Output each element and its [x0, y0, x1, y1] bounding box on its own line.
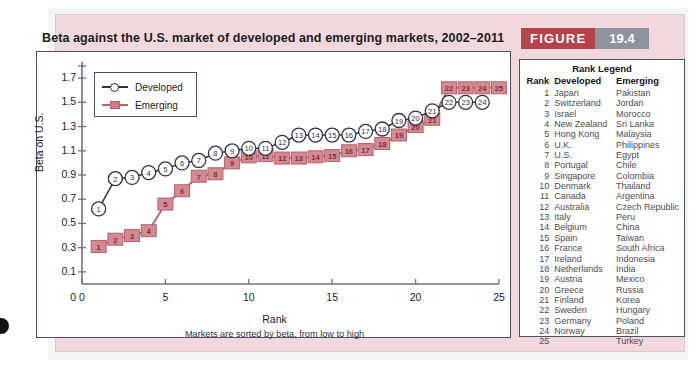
data-point-label: 2 — [113, 175, 117, 184]
rank-cell: 11 — [525, 191, 554, 201]
x-axis-tick-label: 5 — [150, 291, 180, 303]
data-point-label: 12 — [278, 154, 286, 163]
data-point-label: 11 — [262, 144, 270, 153]
rank-legend-row: 16FranceSouth Africa — [525, 243, 679, 253]
data-point-label: 22 — [445, 84, 453, 93]
rank-legend-row: 18NetherlandsIndia — [525, 264, 679, 274]
data-point-label: 24 — [478, 84, 487, 93]
figure-badge-label: FIGURE — [521, 28, 595, 49]
column-header-rank: Rank — [525, 76, 554, 88]
developed-cell: U.S. — [554, 150, 616, 160]
rank-legend-row: 24NorwayBrazil — [525, 326, 679, 336]
y-axis-tick-label: 0.7 — [46, 192, 76, 204]
data-point-label: 9 — [230, 147, 234, 156]
rank-legend-row: 14BelgiumChina — [525, 222, 679, 232]
column-header-developed: Developed — [554, 76, 616, 88]
legend-item-developed: Developed — [102, 78, 196, 96]
emerging-cell: Morocco — [616, 109, 679, 119]
developed-cell: Ireland — [554, 254, 616, 264]
rank-cell: 7 — [525, 150, 554, 160]
x-axis-tick-label: 25 — [484, 291, 514, 303]
emerging-cell: Brazil — [616, 326, 679, 336]
chart-caption: Markets are sorted by beta, from low to … — [37, 329, 512, 339]
chart-panel: Beta on U.S. 0.10.30.50.70.91.11.31.51.7… — [36, 51, 511, 338]
rank-cell: 12 — [525, 202, 554, 212]
developed-cell: Japan — [554, 88, 616, 98]
rank-legend-row: 2SwitzerlandJordan — [525, 98, 679, 108]
developed-cell: Greece — [554, 285, 616, 295]
rank-cell: 10 — [525, 181, 554, 191]
emerging-cell: India — [616, 264, 679, 274]
rank-cell: 16 — [525, 243, 554, 253]
data-point-label: 9 — [230, 159, 234, 168]
y-axis-tick-label: 1.1 — [46, 144, 76, 156]
developed-cell: Hong Kong — [554, 129, 616, 139]
figure-badge-number: 19.4 — [595, 28, 648, 49]
data-point-label: 21 — [428, 107, 436, 116]
rank-cell: 18 — [525, 264, 554, 274]
developed-cell: Germany — [554, 316, 616, 326]
y-axis-tick-label: 0.3 — [46, 241, 76, 253]
data-point-label: 25 — [495, 84, 504, 93]
rank-cell: 15 — [525, 233, 554, 243]
data-point-label: 2 — [113, 236, 117, 245]
emerging-cell: Philippines — [616, 140, 679, 150]
developed-cell: Spain — [554, 233, 616, 243]
developed-cell: Netherlands — [554, 264, 616, 274]
column-header-emerging: Emerging — [616, 76, 679, 88]
emerging-cell: Indonesia — [616, 254, 679, 264]
data-point-label: 13 — [295, 131, 303, 140]
rank-cell: 20 — [525, 285, 554, 295]
developed-cell: U.K. — [554, 140, 616, 150]
rank-legend-row: 5Hong KongMalaysia — [525, 129, 679, 139]
x-axis-tick-label: 15 — [317, 291, 347, 303]
emerging-cell: Chile — [616, 160, 679, 170]
data-point-label: 12 — [278, 138, 286, 147]
y-axis-tick-label: 1.3 — [46, 120, 76, 132]
rank-legend-row: 13ItalyPeru — [525, 212, 679, 222]
emerging-cell: Poland — [616, 316, 679, 326]
rank-legend-grid: Rank Developed Emerging 1JapanPakistan2S… — [525, 76, 679, 347]
legend-marker-developed-icon — [102, 81, 128, 93]
rank-cell: 6 — [525, 140, 554, 150]
data-point-label: 10 — [245, 144, 253, 153]
emerging-cell: Taiwan — [616, 233, 679, 243]
rank-cell: 19 — [525, 274, 554, 284]
emerging-cell: China — [616, 222, 679, 232]
rank-legend-table: Rank Legend Rank Developed Emerging 1Jap… — [519, 59, 685, 337]
data-point-label: 14 — [311, 131, 319, 140]
rank-cell: 2 — [525, 98, 554, 108]
y-axis-label: Beta on U.S. — [33, 112, 45, 172]
developed-cell: Italy — [554, 212, 616, 222]
data-point-label: 4 — [147, 169, 151, 178]
data-point-label: 23 — [461, 98, 469, 107]
emerging-cell: Jordan — [616, 98, 679, 108]
rank-cell: 14 — [525, 222, 554, 232]
data-point-label: 6 — [180, 159, 184, 168]
emerging-cell: Colombia — [616, 171, 679, 181]
emerging-cell: Russia — [616, 285, 679, 295]
developed-cell: New Zealand — [554, 119, 616, 129]
rank-cell: 9 — [525, 171, 554, 181]
emerging-cell: Hungary — [616, 305, 679, 315]
emerging-cell: Peru — [616, 212, 679, 222]
rank-cell: 13 — [525, 212, 554, 222]
x-axis-label: Rank — [37, 313, 512, 325]
developed-cell: Singapore — [554, 171, 616, 181]
rank-legend-row: 15SpainTaiwan — [525, 233, 679, 243]
rank-legend-row: 12AustraliaCzech Republic — [525, 202, 679, 212]
rank-legend-row: 22SwedenHungary — [525, 305, 679, 315]
rank-cell: 8 — [525, 160, 554, 170]
data-point-label: 8 — [213, 149, 217, 158]
data-point-label: 8 — [213, 170, 217, 179]
y-axis-tick-label: 0.9 — [46, 168, 76, 180]
y-axis-tick-label: 1.5 — [46, 95, 76, 107]
rank-cell: 25 — [525, 336, 554, 346]
plot-area: Beta on U.S. 0.10.30.50.70.91.11.31.51.7… — [37, 52, 512, 339]
rank-legend-row: 21FinlandKorea — [525, 295, 679, 305]
emerging-cell: Turkey — [616, 336, 679, 346]
emerging-cell: Czech Republic — [616, 202, 679, 212]
data-point-label: 19 — [395, 131, 403, 140]
data-point-label: 22 — [445, 98, 453, 107]
developed-cell: Belgium — [554, 222, 616, 232]
